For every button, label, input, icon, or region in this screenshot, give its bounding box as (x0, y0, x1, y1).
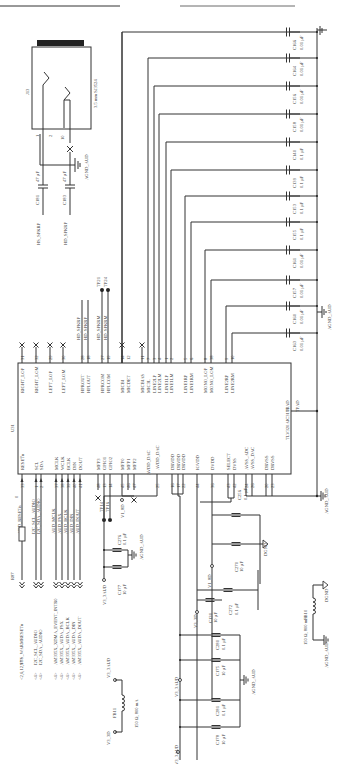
ic-pin-dvdd: DVDD36 (210, 456, 215, 490)
cap-value: 0.1 µF (299, 227, 304, 240)
digital-audio-bus: AUD_RESETnI2C_SCL_AUDIOI2C_SDA_AUDIOAUD_… (10, 478, 82, 580)
cap-ref: C158 (292, 121, 297, 132)
arrow-icon (40, 478, 43, 482)
pin-name: DIN (72, 461, 77, 470)
schematic-sheet: J13 3.5 mm SJ3524 1 10 2 AGND_AUD 47 µF … (0, 0, 348, 764)
power-net: V3_3D (193, 614, 198, 628)
pin-name: MICBIAS (140, 373, 145, 393)
junction-dot (179, 699, 181, 701)
junction-dot (100, 288, 104, 292)
inductor-icon (313, 610, 316, 614)
power-port-icon (121, 499, 124, 502)
cap-ref: C175 (215, 665, 220, 676)
power-net: V3_3AUD (102, 584, 107, 605)
svg-text:HS_SPKRP: HS_SPKRP (36, 222, 41, 245)
cap-ref: C280 (215, 639, 220, 650)
jack-contact-right (64, 87, 70, 128)
filter-cap-c164: C1640.01 µF (287, 54, 319, 77)
pin-name: MFP0 (120, 458, 125, 470)
jack-contact-left (43, 72, 49, 128)
arrow-icon (55, 478, 58, 482)
filter-cap-c140: C1400.1 µF (287, 138, 319, 161)
junction-dot (316, 141, 318, 143)
filter-cap-c156: C1560.01 µF (287, 82, 319, 105)
pin-name: DOUT (78, 457, 83, 470)
input-filter-traces (122, 32, 300, 363)
connector-direction: <4> (77, 672, 82, 680)
net-label: HD_SPKRM (103, 315, 108, 340)
power-net: V1_8D (207, 574, 212, 588)
net-label: AVDD_DAC (146, 450, 151, 475)
connector-am335x_auda_din: <4>AM335X_AUDA_DIN (71, 582, 77, 680)
ground-icon (317, 26, 327, 35)
arrow-icon (61, 478, 64, 482)
filter-capacitors: C1660.01 µFC1640.01 µFC1560.01 µFC1580.0… (287, 28, 319, 352)
ic-pin-avssdac: AVSS_DAC26 (250, 447, 255, 490)
agnd-ground-icon (128, 550, 136, 560)
agnd-ground-icon (317, 306, 326, 318)
ic-pin-left_lop: LEFT_LOP29 (48, 343, 54, 394)
pin-name: MICDET (126, 375, 131, 393)
ic-pin-drvss: DRVSS20 (264, 455, 269, 490)
agnd-ground-icon (240, 675, 248, 685)
cap-value: 0.1 µF (299, 175, 304, 188)
inductor-icon (313, 606, 316, 610)
connector-net: SYS_WARMRESETn (19, 623, 24, 665)
svg-text:HD_SPKRP: HD_SPKRP (63, 222, 68, 245)
no-connect-icon (48, 343, 53, 348)
filter-cap-c155: C1550.1 µF (287, 218, 319, 241)
net-label: AUD_DIN (69, 513, 74, 534)
power-rails: C2560.1 µFDGNDV1_8DC27010 µFC2720.1 µFC1… (172, 487, 268, 760)
hp-coupling-caps: 47 µF C181 HS_SPKRP 47 µF C183 HD_SPKRP (35, 152, 75, 245)
filter-cap-c139: C1390.1 µF (287, 166, 319, 189)
ic-pin-avdddac: AVDD_DAC25 (155, 445, 160, 490)
pin-name: DRVDD (181, 453, 186, 470)
connector-am335x_auda_fsx: <4>AM335X_AUDA_FSX (59, 582, 65, 680)
pin-name: AVDD_DAC (155, 445, 160, 470)
pin-name: RESET̅n (20, 453, 25, 470)
cap-ref: C139 (292, 177, 297, 188)
inductor-icon (122, 695, 125, 699)
cap-value: 10 µF (239, 561, 244, 572)
pin-name: WCLK (60, 456, 65, 470)
bead-ref: FB11 (112, 707, 117, 718)
pin-name: SELECT (226, 453, 231, 470)
filter-cap-c163: C1630.01 µF (287, 329, 319, 352)
cap-value: 0.1 µF (234, 602, 239, 615)
inductor-icon (313, 602, 316, 606)
junction-dot (103, 566, 105, 568)
pin-name: LINE1LM (169, 373, 174, 393)
testpoint-label: TP16 (105, 501, 110, 512)
resistor-icon (19, 527, 25, 541)
junction-dot (316, 31, 318, 33)
pin-name: RIGHT_LOP (20, 368, 25, 393)
jack-body-top (37, 40, 84, 46)
ic-pin-select: SELECT43 (226, 453, 231, 490)
power-net: V3_3AUD (174, 744, 179, 764)
junction-dot (179, 726, 181, 728)
pin-name: AVSS_ADC (244, 447, 249, 470)
filter-cap-c153: C1530.1 µF (287, 192, 319, 215)
ic-pin-right_lom: RIGHT_LOM32 (34, 343, 40, 394)
thermal-pad-label: TPAD (285, 400, 290, 412)
pin-name: HPRCOM (100, 374, 105, 393)
testpoint-label: TP24 (103, 276, 108, 287)
junction-dot (316, 305, 318, 307)
filter-cap-c160: C1600.01 µF (287, 302, 319, 325)
resistor-ref: R87 (10, 572, 15, 580)
agnd-label: AGND_AUD (327, 304, 332, 330)
net-label: I2C_SDA_AUDIO (36, 498, 41, 534)
thermal-pad-label: TPAD (295, 400, 300, 412)
no-connect-icon (140, 343, 145, 348)
connector-i2c_sda_audio: <4>I2C_SDA_AUDIO (38, 582, 44, 680)
cap-ref: C166 (292, 39, 297, 50)
cap-value: 0.1 µF (221, 637, 226, 650)
audio-jack-j13: J13 3.5 mm SJ3524 1 10 2 AGND_AUD (25, 40, 98, 180)
junction-dot (106, 288, 110, 292)
cap-ref: C140 (292, 149, 297, 160)
net-label: AGND_AUD (139, 534, 144, 560)
svg-text:47 µF: 47 µF (35, 171, 40, 182)
power-net: V3_3D (106, 731, 111, 745)
ic-ref: U31 (10, 423, 15, 432)
pin-name: LINE1RP (183, 374, 188, 393)
